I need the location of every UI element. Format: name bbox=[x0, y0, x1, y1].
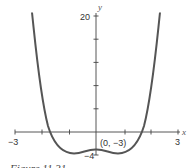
y-tick-label-top: 20 bbox=[80, 12, 90, 22]
x-tick-label-left: −3 bbox=[8, 137, 18, 147]
x-tick-label-right: 3 bbox=[175, 137, 180, 147]
point-annotation: (0, −3) bbox=[100, 138, 126, 148]
y-tick-label-bottom: −4 bbox=[84, 151, 94, 161]
y-axis-label: y bbox=[97, 2, 102, 12]
x-axis-label: x bbox=[181, 127, 186, 137]
function-plot: y x 20 −4 −3 3 (0, −3) Figure 11.31 bbox=[0, 0, 193, 168]
figure-caption: Figure 11.31 bbox=[9, 162, 66, 168]
